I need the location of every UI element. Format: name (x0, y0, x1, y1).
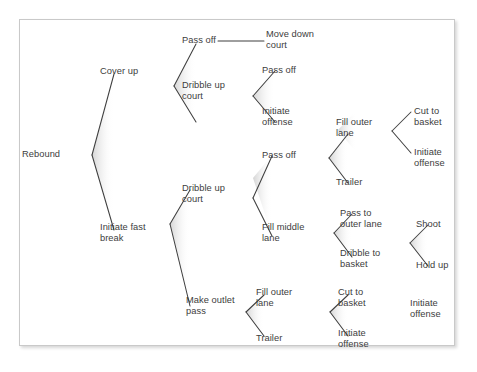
node-move-down-court: Move down court (266, 29, 314, 52)
node-fill-middle-lane: Fill middle lane (262, 222, 304, 245)
node-pass-to-outer-lane: Pass to outer lane (340, 208, 382, 231)
node-initiate-offense-3: Initiate offense (338, 328, 369, 351)
node-dribble-up-court-2: Dribble up court (182, 183, 225, 206)
node-make-outlet-pass: Make outlet pass (186, 295, 235, 318)
node-cut-to-basket-1: Cut to basket (414, 106, 442, 129)
node-fill-outer-lane-1: Fill outer lane (336, 117, 372, 140)
node-pass-off-1: Pass off (182, 35, 216, 46)
node-cut-to-basket-2: Cut to basket (338, 287, 366, 310)
node-shoot: Shoot (416, 219, 441, 230)
node-initiate-offense-4: Initiate offense (410, 298, 441, 321)
node-trailer-2: Trailer (256, 333, 282, 344)
node-initiate-fast-break: Initiate fast break (100, 222, 146, 245)
node-pass-off-2: Pass off (262, 65, 296, 76)
node-initiate-offense-1: Initiate offense (262, 106, 293, 129)
node-rebound: Rebound (22, 149, 60, 160)
node-cover-up: Cover up (100, 66, 138, 77)
node-initiate-offense-2: Initiate offense (414, 147, 445, 170)
figure-canvas: Rebound Cover up Pass off Move down cour… (0, 0, 477, 372)
diagram-frame (19, 19, 455, 346)
node-dribble-to-basket: Dribble to basket (340, 248, 380, 271)
node-fill-outer-lane-2: Fill outer lane (256, 287, 292, 310)
node-dribble-up-court-1: Dribble up court (182, 80, 225, 103)
node-trailer-1: Trailer (336, 177, 362, 188)
node-pass-off-3: Pass off (262, 150, 296, 161)
node-hold-up: Hold up (416, 260, 448, 271)
